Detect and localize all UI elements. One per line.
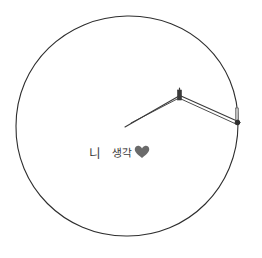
heart-icon [134, 145, 150, 159]
caption-word-thought: 생각 [112, 144, 133, 161]
caption: 니 생각 [89, 143, 150, 161]
illustration-canvas [0, 0, 262, 258]
compass-pencil-leg [181, 96, 237, 121]
compass-icon [125, 88, 240, 127]
caption-word-you: 니 [89, 144, 101, 161]
